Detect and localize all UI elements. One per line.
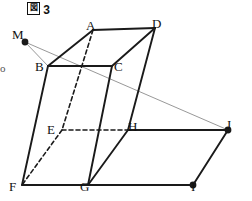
vertex-label-I: I	[191, 180, 195, 193]
vertex-label-F: F	[9, 180, 16, 193]
vertex-label-M: M	[12, 28, 24, 41]
vertex-label-A: A	[86, 19, 95, 32]
vertex-label-C: C	[114, 60, 123, 73]
edge-M-J	[25, 42, 228, 130]
edge-A-B	[48, 30, 93, 66]
vertex-label-D: D	[152, 17, 161, 30]
edge-I-J	[193, 130, 228, 185]
solid-edges-group	[22, 28, 228, 185]
edge-A-E	[62, 30, 93, 130]
figure-container: 図 3 o ABCDEFGHIJM	[0, 0, 252, 201]
edge-A-D	[93, 28, 155, 30]
vertex-label-G: G	[80, 180, 89, 193]
dashed-edges-group	[22, 30, 128, 185]
vertex-label-J: J	[226, 118, 231, 131]
light-lines-group	[25, 42, 228, 130]
vertex-label-H: H	[128, 120, 137, 133]
edge-D-H	[128, 28, 155, 130]
geometry-drawing	[0, 0, 252, 201]
vertex-label-E: E	[47, 123, 55, 136]
vertex-label-B: B	[35, 60, 44, 73]
